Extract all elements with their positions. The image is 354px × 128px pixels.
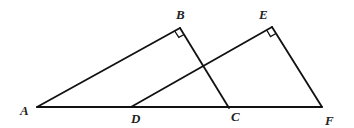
segment-de xyxy=(131,27,272,107)
label-b: B xyxy=(175,7,185,22)
segment-ef xyxy=(272,27,322,107)
label-d: D xyxy=(130,111,141,126)
geometry-diagram: A B C D E F xyxy=(0,0,354,128)
label-e: E xyxy=(258,7,268,22)
label-c: C xyxy=(231,109,240,124)
label-f: F xyxy=(324,113,334,128)
label-a: A xyxy=(19,103,29,118)
segment-ab xyxy=(37,28,180,107)
segment-bc xyxy=(180,28,229,108)
